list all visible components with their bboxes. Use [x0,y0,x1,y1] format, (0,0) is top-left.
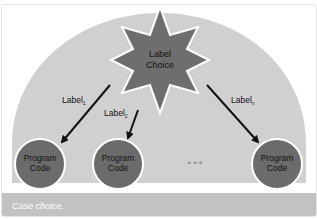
program-code-node-1: Program Code [15,139,65,189]
arrow-label-n: Labeln [231,95,255,106]
star-label-line2: Choice [146,60,174,70]
svg-text:Program: Program [24,153,57,163]
svg-text:Code: Code [30,163,51,173]
arrow-label-1: Label1 [62,95,86,106]
figure-frame: Label Choice Label1 Label2 Labeln Progra… [1,4,317,217]
case-choice-diagram: Label Choice Label1 Label2 Labeln Progra… [2,5,316,190]
figure-caption-bar: Case choice. [2,193,316,217]
figure-caption: Case choice. [12,201,64,211]
svg-text:Code: Code [267,163,288,173]
svg-text:Program: Program [261,153,294,163]
program-code-node-n: Program Code [252,139,302,189]
ellipsis: • • • [188,158,202,168]
svg-text:Code: Code [108,163,129,173]
star-label-line1: Label [149,49,171,59]
arrow-label-2: Label2 [104,108,128,119]
svg-text:Program: Program [102,153,135,163]
program-code-node-2: Program Code [93,139,143,189]
